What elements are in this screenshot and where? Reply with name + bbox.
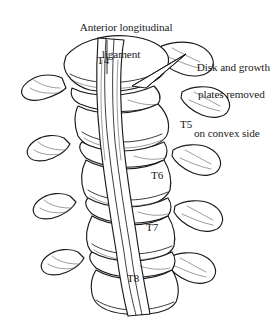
left-transverse-processes [22,75,84,275]
annotation-anterior-longitudinal-ligament: Anterior longitudinal ligament [46,8,196,87]
annotation-disk-line2: plates removed [186,88,279,101]
vertebra-label-t5: T5 [180,118,192,130]
vertebra-label-t4: T4 [97,54,109,66]
annotation-disk-line1: Disk and growth [197,61,270,73]
vertebra-label-t8: T8 [127,272,139,284]
illustration-page: .ol { fill: #ffffff; stroke: #1a1a1a; st… [0,0,279,325]
vertebra-label-t7: T7 [146,221,158,233]
annotation-ligament-line2: ligament [46,48,196,61]
annotation-ligament-line1: Anterior longitudinal [80,21,173,33]
vertebra-label-t6: T6 [151,169,163,181]
annotation-disk-and-growth-plates: Disk and growth plates removed on convex… [186,48,279,167]
annotation-disk-line3: on convex side [186,127,279,140]
